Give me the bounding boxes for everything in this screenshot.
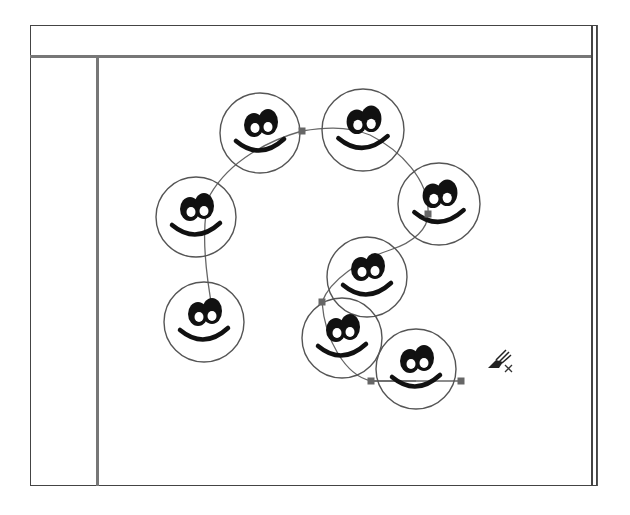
path-handle[interactable] [425,211,432,218]
smiley-face-icon[interactable] [164,282,244,362]
smiley-face-icon[interactable] [327,237,407,317]
path-handle[interactable] [299,128,306,135]
smiley-face-icon[interactable] [302,298,382,378]
path-handle[interactable] [368,378,375,385]
smiley-face-icon[interactable] [220,93,300,173]
path-handle[interactable] [458,378,465,385]
smiley-face-icon[interactable] [156,177,236,257]
spray-brush-delete-cursor-icon [488,350,512,372]
smiley-face-icon[interactable] [376,329,456,409]
path-handle[interactable] [319,299,326,306]
drawing-canvas[interactable] [0,0,630,515]
smiley-face-icon[interactable] [322,89,404,171]
smiley-face-icon[interactable] [398,163,480,245]
